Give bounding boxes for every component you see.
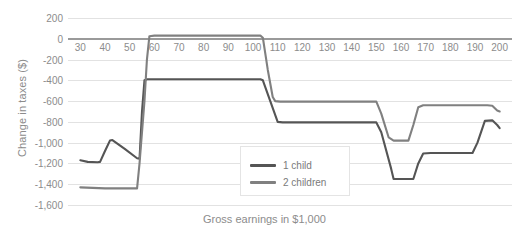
legend-swatch-2-children [250, 181, 276, 184]
y-axis-tick-label: -800 [43, 116, 63, 127]
y-axis-tick-label: -1,200 [35, 158, 63, 169]
plot-area: 2000-200-400-600-800-1,000-1,200-1,400-1… [68, 18, 512, 205]
legend-item-2-children: 2 children [250, 175, 326, 189]
legend-item-1-child: 1 child [250, 158, 312, 172]
y-axis-tick-label: -1,400 [35, 179, 63, 190]
legend-swatch-1-child [250, 164, 276, 167]
y-axis-tick-label: 200 [46, 13, 63, 24]
y-axis-tick-label: -1,000 [35, 137, 63, 148]
y-axis-tick-label: -200 [43, 54, 63, 65]
y-axis-tick-label: -1,600 [35, 200, 63, 211]
legend-label-2-children: 2 children [283, 177, 326, 188]
y-axis-tick-label: -600 [43, 96, 63, 107]
x-axis-title: Gross earnings in $1,000 [0, 213, 529, 225]
y-axis-tick-label: -400 [43, 75, 63, 86]
gridline [68, 205, 512, 206]
y-axis-title: Change in taxes ($) [16, 23, 28, 193]
y-axis-tick-label: 0 [57, 33, 63, 44]
tax-change-line-chart: Change in taxes ($) Gross earnings in $1… [0, 0, 529, 238]
chart-legend: 1 child 2 children [240, 146, 350, 196]
legend-label-1-child: 1 child [283, 160, 312, 171]
